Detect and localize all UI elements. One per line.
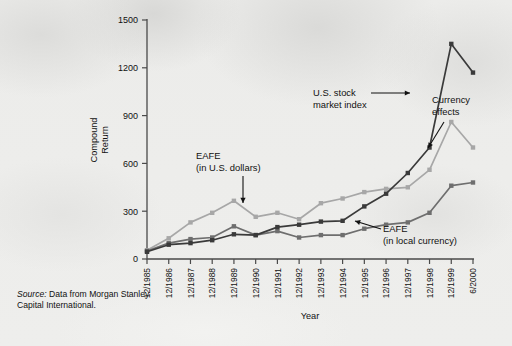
data-point: [254, 233, 258, 237]
y-axis-title: Compound: [89, 118, 99, 163]
x-axis-tick-label: 12/1999: [446, 268, 456, 299]
annotation-eafe-local-line1: EAFE: [383, 223, 408, 234]
series-us-stock-index: [145, 42, 475, 254]
source-note: Source: Data from Morgan Stanley Capital…: [17, 289, 152, 312]
data-point: [188, 220, 192, 224]
data-point: [275, 211, 279, 215]
data-point: [384, 192, 388, 196]
x-axis-tick-label: 12/1996: [381, 268, 391, 299]
data-point: [362, 190, 366, 194]
annotation-arrow-us-stock: [371, 90, 410, 95]
data-point: [449, 120, 453, 124]
data-point: [471, 145, 475, 149]
data-point: [319, 201, 323, 205]
data-point: [232, 224, 236, 228]
x-axis-tick-label: 12/1988: [207, 268, 217, 299]
data-point: [471, 180, 475, 184]
x-axis-tick-label: 12/1995: [360, 268, 370, 299]
annotation-currency-line2: effects: [432, 106, 460, 117]
y-axis-title-line2: Return: [100, 126, 110, 154]
data-point: [275, 225, 279, 229]
y-axis-tick-label: 300: [123, 207, 138, 217]
data-point: [232, 232, 236, 236]
data-point: [340, 219, 344, 223]
x-axis-tick-label: 12/1994: [338, 268, 348, 299]
data-point: [449, 42, 453, 46]
y-axis-tick-label: 600: [123, 159, 138, 169]
data-point: [362, 204, 366, 208]
data-point: [232, 199, 236, 203]
data-point: [297, 217, 301, 221]
x-axis-title: Year: [301, 311, 320, 321]
y-axis-tick-label: 0: [133, 254, 138, 264]
data-point: [188, 241, 192, 245]
data-point: [145, 250, 149, 254]
x-axis-tick-label: 12/1997: [403, 268, 413, 299]
y-axis-tick-label: 900: [123, 111, 138, 121]
x-axis-tick-label: 12/1990: [251, 268, 261, 299]
data-point: [167, 236, 171, 240]
annotation-currency-line1: Currency: [432, 94, 470, 105]
data-point: [406, 185, 410, 189]
x-axis-tick-label: 6/2000: [468, 268, 478, 294]
series-eafe-usd: [145, 120, 475, 253]
data-point: [406, 171, 410, 175]
data-point: [210, 238, 214, 242]
y-axis-tick-label: 1500: [118, 15, 138, 25]
data-point: [340, 233, 344, 237]
data-point: [362, 227, 366, 231]
series-line: [147, 122, 473, 250]
annotation-eafe-local-line2: (in local currency): [383, 235, 457, 246]
annotation-arrow-eafe-usd: [240, 176, 245, 203]
data-point: [275, 229, 279, 233]
data-point: [188, 237, 192, 241]
data-point: [319, 233, 323, 237]
x-axis-tick-label: 12/1986: [164, 268, 174, 299]
data-point: [427, 211, 431, 215]
x-axis-tick-label: 12/1987: [186, 268, 196, 299]
y-axis-tick-label: 1200: [118, 63, 138, 73]
data-point: [340, 196, 344, 200]
annotation-us-stock-line2: market index: [313, 99, 367, 110]
data-point: [449, 184, 453, 188]
figure-container: 03006009001200150012/198512/198612/19871…: [0, 0, 512, 346]
annotation-us-stock-line1: U.S. stock: [313, 87, 356, 98]
x-axis-tick-label: 12/1992: [294, 268, 304, 299]
x-axis-tick-label: 12/1991: [273, 268, 283, 299]
data-point: [210, 211, 214, 215]
x-axis-tick-label: 12/1989: [229, 268, 239, 299]
data-point: [297, 235, 301, 239]
source-note-label: Source:: [17, 289, 47, 299]
x-axis-tick-label: 12/1998: [425, 268, 435, 299]
annotation-eafe-usd-line1: EAFE: [196, 150, 221, 161]
data-point: [254, 215, 258, 219]
x-axis-tick-label: 12/1993: [316, 268, 326, 299]
data-point: [319, 219, 323, 223]
data-point: [384, 187, 388, 191]
data-point: [471, 70, 475, 74]
data-point: [427, 168, 431, 172]
data-point: [167, 243, 171, 247]
data-point: [297, 223, 301, 227]
annotation-eafe-usd-line2: (in U.S. dollars): [196, 162, 261, 173]
